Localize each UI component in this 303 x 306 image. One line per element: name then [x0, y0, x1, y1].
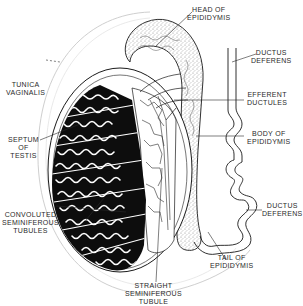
- label-head-of-epididymis: HEAD OF EPIDIDYMIS: [187, 6, 230, 22]
- label-tail-of-epididymis: TAIL OF EPIDIDYMIS: [210, 254, 253, 270]
- label-tunica-vaginalis: TUNICA VAGINALIS: [6, 81, 45, 97]
- label-straight-seminiferous-tubule: STRAIGHT SEMINIFEROUS TUBULE: [125, 282, 182, 306]
- leader-tunica-vaginalis: [46, 60, 60, 62]
- label-convoluted-seminiferous-tubules: CONVOLUTED SEMINIFEROUS TUBULES: [2, 211, 59, 235]
- label-efferent-ductules: EFFERENT DUCTULES: [247, 91, 287, 107]
- label-ductus-deferens-bottom: DUCTUS DEFERENS: [262, 202, 303, 218]
- label-ductus-deferens-top: DUCTUS DEFERENS: [251, 49, 292, 65]
- label-body-of-epididymis: BODY OF EPIDIDYMIS: [247, 130, 290, 146]
- label-septum-of-testis: SEPTUM OF TESTIS: [8, 136, 39, 160]
